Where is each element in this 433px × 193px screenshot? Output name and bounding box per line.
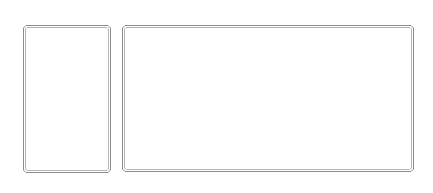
- left-panel: [23, 25, 111, 173]
- right-panel: [122, 25, 414, 172]
- left-panel-border: [23, 25, 111, 173]
- right-panel-border: [122, 25, 414, 172]
